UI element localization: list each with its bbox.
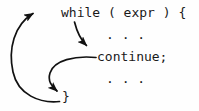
continue-jump-arrow [75, 22, 87, 46]
code-line-body-ellipsis-top: . . . [106, 28, 145, 42]
code-line-continue-statement: continue; [97, 50, 167, 64]
loop-back-arrow [11, 14, 59, 102]
code-line-while-header: while ( expr ) { [61, 6, 186, 20]
code-line-closing-brace: } [62, 90, 70, 104]
control-flow-diagram: while ( expr ) { . . . continue; . . . } [0, 0, 199, 111]
code-line-body-ellipsis-bottom: . . . [106, 72, 145, 86]
continue-to-brace-arrow [49, 57, 96, 91]
